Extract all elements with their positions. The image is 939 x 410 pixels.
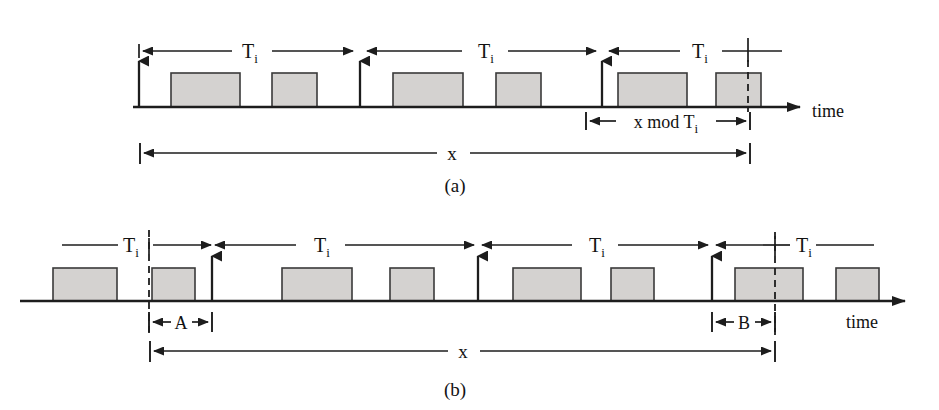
pulse-block: [390, 268, 434, 301]
figure-root: Ti Ti Ti time: [0, 0, 939, 410]
pulse-block: [152, 268, 195, 301]
period-label-b3: Ti: [589, 234, 605, 260]
panel-b-caption: (b): [444, 379, 466, 401]
panel-a-time-label: time: [812, 101, 844, 121]
panel-a-caption: (a): [444, 175, 465, 197]
pulse-block: [53, 268, 117, 301]
segment-b-label: B: [738, 313, 750, 333]
panel-b: Ti Ti Ti Ti: [20, 230, 905, 401]
pulse-block: [171, 73, 240, 107]
segment-a-label: A: [175, 313, 188, 333]
panel-b-time-label: time: [846, 312, 878, 332]
period-label-b4: Ti: [796, 234, 812, 260]
panel-b-pulses: [53, 268, 879, 301]
panel-a-total-label: x: [447, 143, 457, 164]
panel-a-period-dimensions: [139, 38, 782, 62]
panel-b-total-label: x: [458, 341, 468, 362]
pulse-block: [496, 73, 541, 107]
panel-a-pulses: [171, 73, 761, 107]
remainder-label: x mod Ti: [634, 112, 699, 136]
pulse-block: [716, 73, 761, 107]
period-label-a1: Ti: [242, 40, 258, 66]
pulse-block: [611, 268, 654, 301]
pulse-block: [735, 268, 803, 301]
pulse-block: [393, 73, 463, 107]
pulse-block: [618, 73, 687, 107]
panel-b-period-dimensions: [62, 236, 874, 256]
period-label-b2: Ti: [314, 234, 330, 260]
pulse-block: [513, 268, 581, 301]
panel-a-total-dimension: [140, 143, 750, 164]
pulse-block: [272, 73, 317, 107]
pulse-block: [282, 268, 352, 301]
timing-diagram: Ti Ti Ti time: [0, 0, 939, 410]
period-label-a2: Ti: [478, 40, 494, 66]
panel-a: Ti Ti Ti time: [133, 38, 844, 197]
period-label-b1: Ti: [123, 234, 139, 260]
period-label-a3: Ti: [692, 40, 708, 66]
pulse-block: [836, 268, 879, 301]
